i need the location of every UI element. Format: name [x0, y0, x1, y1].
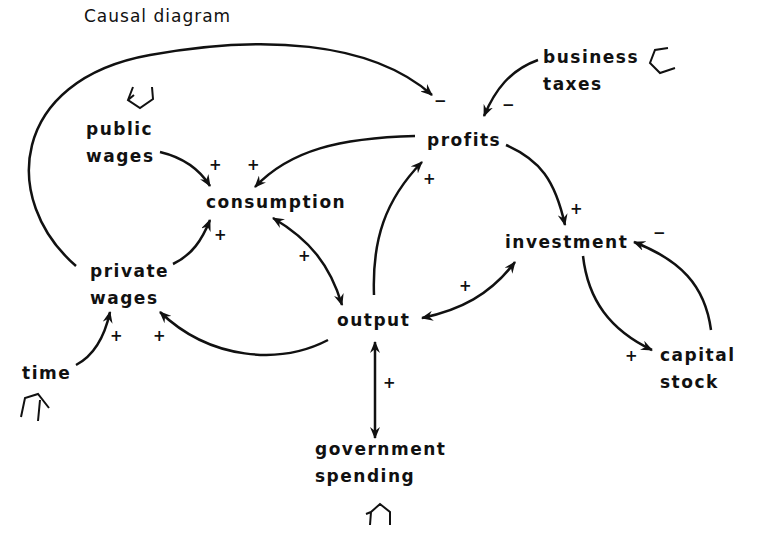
arrow-output-to-private-wages — [160, 312, 328, 355]
arrow-investment-to-capital-stock — [583, 256, 652, 350]
node-profits: profits — [427, 127, 501, 154]
node-label: government — [315, 436, 446, 463]
arrow-time-to-private-wages — [76, 312, 110, 365]
node-time: time — [22, 360, 71, 387]
node-capital-stock: capital stock — [660, 342, 735, 396]
sign-profits-consumption: + — [247, 156, 260, 174]
sign-investment-capital-stock: + — [625, 347, 638, 365]
node-label: spending — [315, 463, 446, 490]
node-public-wages: public wages — [86, 116, 155, 170]
node-consumption: consumption — [206, 189, 346, 216]
sign-output-investment: + — [459, 277, 472, 295]
node-label: private — [90, 258, 169, 285]
arrow-public-wages-to-consumption — [160, 152, 210, 186]
arrow-profits-to-investment — [506, 145, 565, 225]
node-business-taxes: business taxes — [543, 44, 639, 98]
exogenous-marker-public-wages — [128, 87, 153, 108]
node-label: taxes — [543, 71, 639, 98]
node-label: wages — [86, 143, 155, 170]
arrow-profits-to-consumption — [255, 136, 415, 187]
exogenous-marker-time — [21, 394, 49, 421]
sign-time-private-wages: + — [110, 327, 123, 345]
exogenous-marker-government-spending — [366, 504, 390, 525]
sign-profits-investment: + — [570, 200, 583, 218]
node-label: capital — [660, 342, 735, 369]
exogenous-marker-business-taxes — [648, 48, 675, 73]
node-investment: investment — [505, 229, 628, 256]
arrow-output-to-profits — [374, 162, 422, 295]
sign-business-taxes-profits: − — [502, 96, 515, 114]
arrow-private-wages-to-consumption — [173, 220, 210, 264]
node-government-spending: government spending — [315, 436, 446, 490]
sign-output-private-wages: + — [153, 327, 166, 345]
sign-private-wages-consumption: + — [214, 226, 227, 244]
sign-consumption-output: + — [298, 247, 311, 265]
sign-public-wages-consumption: + — [209, 156, 222, 174]
sign-private-wages-profits: − — [434, 92, 447, 110]
node-private-wages: private wages — [90, 258, 169, 312]
arrow-capital-stock-to-investment — [634, 242, 711, 330]
sign-capital-stock-investment: − — [653, 224, 666, 242]
sign-output-profits: + — [423, 170, 436, 188]
node-label: wages — [90, 285, 169, 312]
node-label: business — [543, 44, 639, 71]
node-label: stock — [660, 369, 735, 396]
node-label: public — [86, 116, 155, 143]
sign-government-spending-output: + — [383, 374, 396, 392]
node-output: output — [337, 307, 410, 334]
